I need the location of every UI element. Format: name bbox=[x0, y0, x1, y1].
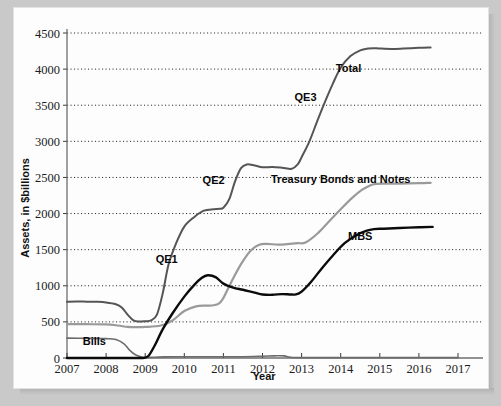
y-tick-label-500: 500 bbox=[41, 315, 60, 329]
x-axis-title: Year bbox=[252, 370, 276, 382]
x-tick-label-2009: 2009 bbox=[133, 362, 158, 376]
axis-lines-group bbox=[63, 29, 483, 358]
x-tick-label-2008: 2008 bbox=[94, 362, 119, 376]
annotation-qe2: QE2 bbox=[203, 174, 225, 186]
y-axis-title: Assets, in $billions bbox=[19, 158, 31, 258]
y-tick-label-2000: 2000 bbox=[35, 207, 60, 221]
y-tick-label-4000: 4000 bbox=[35, 63, 60, 77]
annotation-treasury-bonds-and-notes: Treasury Bonds and Notes bbox=[271, 173, 410, 185]
series-line-mbs bbox=[67, 227, 433, 358]
annotation-bills: Bills bbox=[83, 335, 106, 347]
annotation-qe3: QE3 bbox=[295, 91, 317, 103]
x-tick-label-2013: 2013 bbox=[289, 362, 314, 376]
y-axis-tick-labels: 050010001500200025003000350040004500 bbox=[35, 27, 60, 366]
figure-shadow-bottom bbox=[20, 388, 494, 395]
x-tick-label-2016: 2016 bbox=[406, 362, 431, 376]
chart-figure: 050010001500200025003000350040004500 200… bbox=[14, 8, 488, 388]
x-tick-label-2011: 2011 bbox=[211, 362, 236, 376]
y-tick-label-3500: 3500 bbox=[35, 99, 60, 113]
y-tick-label-4500: 4500 bbox=[35, 27, 60, 41]
annotation-mbs: MBS bbox=[348, 230, 372, 242]
fed-balance-sheet-line-chart: 050010001500200025003000350040004500 200… bbox=[14, 8, 488, 388]
x-tick-label-2010: 2010 bbox=[172, 362, 197, 376]
annotation-total: Total bbox=[336, 62, 361, 74]
x-tick-label-2014: 2014 bbox=[328, 362, 354, 376]
annotation-qe1: QE1 bbox=[156, 253, 178, 265]
series-line-treasury-bonds-and-notes bbox=[67, 183, 431, 327]
x-tick-label-2015: 2015 bbox=[367, 362, 392, 376]
y-tick-label-1500: 1500 bbox=[35, 243, 60, 257]
y-tick-label-3000: 3000 bbox=[35, 135, 60, 149]
data-series-group bbox=[67, 47, 458, 358]
y-tick-label-2500: 2500 bbox=[35, 171, 60, 185]
y-tick-label-1000: 1000 bbox=[35, 279, 60, 293]
x-tick-label-2017: 2017 bbox=[446, 362, 471, 376]
figure-shadow-right bbox=[488, 14, 495, 394]
x-tick-label-2007: 2007 bbox=[55, 362, 80, 376]
